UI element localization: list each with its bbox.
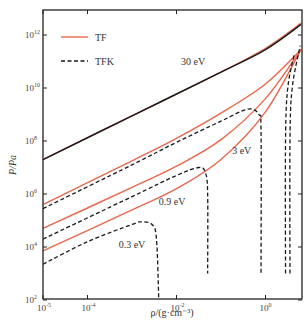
x-tick-label: 100 xyxy=(260,302,272,313)
curve-tfk-30-ev xyxy=(43,24,301,159)
x-axis-label: ρ/(g·cm⁻³) xyxy=(151,307,194,319)
y-tick-label: 1010 xyxy=(25,82,40,93)
x-tick-label: 10-5 xyxy=(37,302,51,313)
curve-tfk-0-9-ev xyxy=(43,167,208,273)
curve-tfk-0-3-ev xyxy=(43,222,159,298)
x-tick-label: 10-4 xyxy=(82,302,96,313)
y-tick-label: 106 xyxy=(25,188,37,199)
y-axis-label: P/Pa xyxy=(7,155,18,176)
annotation-0-3-ev: 0.3 eV xyxy=(119,239,146,250)
annotation-0-9-ev: 0.9 eV xyxy=(159,196,186,207)
curve-tf-30-ev xyxy=(43,23,301,159)
curve-tfk-high-density-branch-b xyxy=(290,46,300,274)
legend: TF TFK xyxy=(61,32,115,67)
y-tick-label: 108 xyxy=(25,135,37,146)
axis-ticks: 10-510-410-210010121010108106104102 xyxy=(25,10,302,313)
y-tick-label: 1012 xyxy=(25,29,40,40)
pressure-density-chart: 10-510-410-210010121010108106104102 30 e… xyxy=(0,0,307,325)
plot-frame xyxy=(43,10,302,299)
plot-curves xyxy=(43,23,301,297)
annotation-30-ev: 30 eV xyxy=(181,56,206,67)
y-tick-label: 102 xyxy=(25,294,37,305)
y-tick-label: 104 xyxy=(25,241,37,252)
annotation-3-ev: 3 eV xyxy=(232,145,252,156)
legend-tfk-label: TFK xyxy=(95,56,115,67)
curve-tf-3-ev xyxy=(43,50,301,205)
legend-tf-label: TF xyxy=(95,32,107,43)
